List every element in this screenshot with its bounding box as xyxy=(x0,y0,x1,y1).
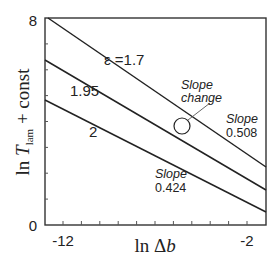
y-tick-0: 0 xyxy=(29,217,37,234)
x-tick-neg2: -2 xyxy=(240,232,253,249)
y-tick-8: 8 xyxy=(29,12,37,29)
annot-slope-b-value: 0.424 xyxy=(155,181,186,195)
label-eps-1-95: 1.95 xyxy=(70,82,99,99)
x-tick-neg12: -12 xyxy=(52,232,74,249)
annot-slope-a-value: 0.508 xyxy=(226,126,257,140)
annot-slope-a-line1: Slope xyxy=(226,112,258,126)
slope-change-circle xyxy=(174,118,190,134)
label-eps-2: 2 xyxy=(89,123,97,140)
x-axis-label: ln Δb xyxy=(134,235,175,256)
annot-slope-change-line2: change xyxy=(181,91,222,105)
y-axis-label: ln Tlam + const xyxy=(12,68,35,176)
slope-change-leader xyxy=(188,103,210,120)
chart: 8 0 -12 -2 ln Δb ln Tlam + const ε =1.7 … xyxy=(0,0,280,261)
label-eps-1-7: ε =1.7 xyxy=(104,51,144,68)
annot-slope-change-line1: Slope xyxy=(181,78,213,92)
annot-slope-b-line1: Slope xyxy=(155,167,187,181)
